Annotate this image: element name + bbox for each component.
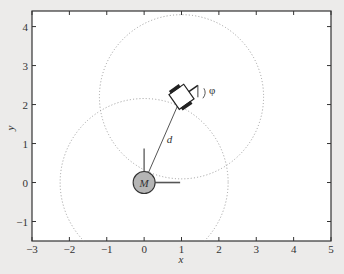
angle-label: φ	[209, 84, 215, 96]
x-tick-label: 2	[216, 243, 222, 255]
y-tick-label: 0	[23, 177, 29, 189]
robot-label: M	[139, 177, 150, 189]
plot-area	[32, 11, 331, 241]
diagram-figure: d M φ −3−2−1012345 −101234 x y	[0, 0, 344, 274]
y-tick-label: 4	[23, 21, 29, 33]
y-axis-label: y	[4, 125, 16, 131]
y-tick-label: −1	[16, 216, 28, 228]
x-tick-label: 0	[141, 243, 147, 255]
x-tick-label: −1	[101, 243, 113, 255]
x-tick-label: −3	[26, 243, 38, 255]
y-tick-label: 2	[23, 99, 29, 111]
x-tick-label: −2	[64, 243, 76, 255]
x-tick-label: 4	[291, 243, 297, 255]
y-tick-label: 3	[23, 60, 29, 72]
x-axis-label: x	[178, 253, 184, 265]
distance-label: d	[167, 133, 173, 145]
x-tick-label: 3	[254, 243, 260, 255]
y-tick-label: 1	[23, 138, 29, 150]
x-tick-label: 5	[328, 243, 334, 255]
